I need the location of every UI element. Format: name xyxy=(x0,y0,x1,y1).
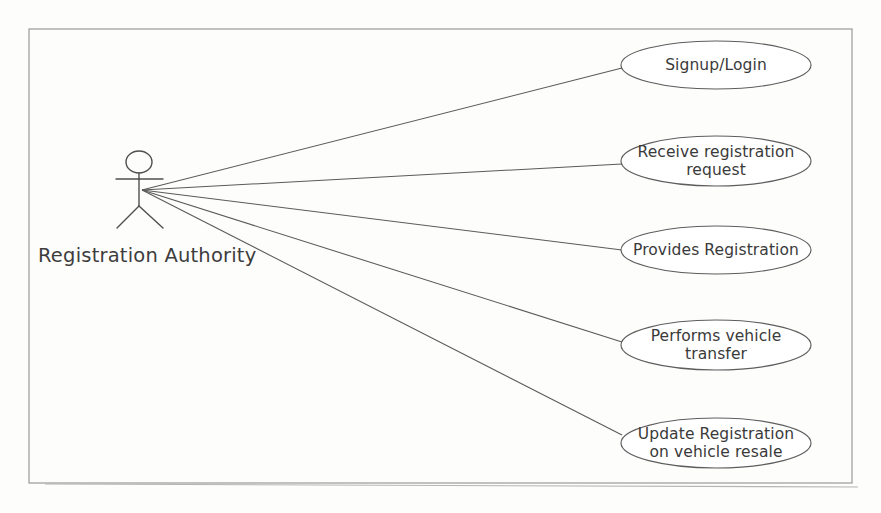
use-case-performs-vehicle-transfer[interactable]: Performs vehicletransfer xyxy=(621,320,811,370)
use-case-nodes-group: Signup/LoginReceive registrationrequestP… xyxy=(621,41,811,468)
use-case-label-provides-registration: Provides Registration xyxy=(633,241,799,259)
use-case-diagram-canvas: Registration Authority Signup/LoginRecei… xyxy=(0,0,881,513)
use-case-label-receive-registration-request: request xyxy=(686,161,746,179)
actor-left-leg-line xyxy=(117,206,139,228)
association-line-receive-registration-request xyxy=(142,164,622,190)
use-case-update-registration-on-vehicle-resale[interactable]: Update Registrationon vehicle resale xyxy=(621,418,811,468)
use-case-label-performs-vehicle-transfer: Performs vehicle xyxy=(651,327,782,345)
actor-label: Registration Authority xyxy=(38,244,256,267)
use-case-label-update-registration-on-vehicle-resale: Update Registration xyxy=(638,425,794,443)
use-case-label-update-registration-on-vehicle-resale: on vehicle resale xyxy=(649,443,782,461)
association-line-signup-login xyxy=(142,68,622,190)
use-case-label-signup-login: Signup/Login xyxy=(665,56,767,74)
use-case-receive-registration-request[interactable]: Receive registrationrequest xyxy=(621,136,811,186)
use-case-provides-registration[interactable]: Provides Registration xyxy=(621,226,811,274)
use-case-label-receive-registration-request: Receive registration xyxy=(637,143,794,161)
actor-head-icon xyxy=(126,151,152,173)
use-case-signup-login[interactable]: Signup/Login xyxy=(621,41,811,89)
association-line-provides-registration xyxy=(142,190,622,250)
association-line-update-registration-on-vehicle-resale xyxy=(142,190,622,435)
page-rule-line xyxy=(45,484,858,487)
actor-right-leg-line xyxy=(139,206,163,228)
use-case-label-performs-vehicle-transfer: transfer xyxy=(685,345,748,363)
